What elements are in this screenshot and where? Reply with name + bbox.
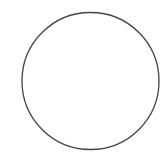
circle-shape [22, 13, 159, 150]
drawing-surface [0, 0, 167, 161]
canvas [0, 0, 167, 161]
